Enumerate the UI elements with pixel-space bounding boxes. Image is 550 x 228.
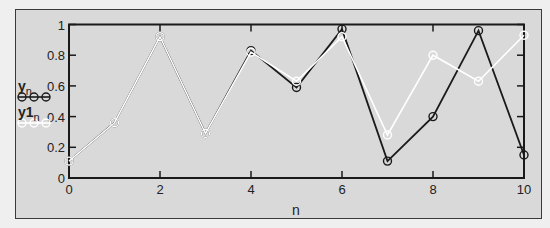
legend-subscript-y: n: [26, 85, 32, 97]
line-chart: 024681000.20.40.60.81: [0, 0, 550, 228]
x-tick-label: 6: [338, 182, 345, 197]
y-tick-label: 1: [58, 18, 65, 33]
x-tick-label: 0: [65, 182, 72, 197]
legend-subscript-y1: n: [34, 111, 40, 123]
y-tick-label: 0.2: [47, 140, 65, 155]
legend-label-y: y: [18, 78, 26, 94]
legend-entry-y: yn: [18, 78, 32, 97]
x-tick-label: 4: [247, 182, 254, 197]
plot-frame: [69, 25, 524, 179]
x-tick-label: 10: [517, 182, 531, 197]
legend-label-y1: y1: [18, 104, 34, 120]
x-axis-label: n: [292, 202, 300, 218]
y-tick-label: 0: [58, 171, 65, 186]
x-tick-label: 2: [156, 182, 163, 197]
x-tick-label: 8: [429, 182, 436, 197]
y-tick-label: 0.6: [47, 79, 65, 94]
y-tick-label: 0.8: [47, 48, 65, 63]
legend-entry-y1: y1n: [18, 104, 40, 123]
series-line-y1_n: [69, 35, 524, 161]
series-line-y_n: [69, 29, 524, 161]
